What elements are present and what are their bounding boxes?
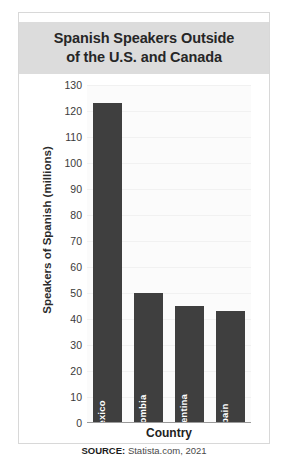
bar-colombia: Colombia [134, 293, 164, 423]
source-label: SOURCE: [81, 445, 125, 456]
x-axis-title: Country [87, 426, 251, 440]
y-tick-label: 30 [70, 339, 82, 351]
y-tick-label: 10 [70, 391, 82, 403]
bar-mexico: Mexico [93, 103, 123, 423]
bar-label: Argentina [178, 394, 189, 423]
y-axis-tick-labels: 0102030405060708090100110120130 [49, 85, 82, 423]
y-tick-label: 50 [70, 287, 82, 299]
plot-wrapper: Speakers of Spanish (millions) 010203040… [19, 74, 269, 445]
source-value: Statista.com, 2021 [128, 445, 207, 456]
bar-label: Mexico [96, 400, 107, 423]
y-tick-label: 80 [70, 209, 82, 221]
chart-title: Spanish Speakers Outside of the U.S. and… [54, 29, 235, 66]
plot-area: MexicoColombiaArgentinaSpain [87, 85, 251, 423]
source-note: SOURCE: Statista.com, 2021 [19, 445, 269, 456]
y-tick-label: 0 [76, 417, 82, 429]
y-tick-label: 110 [65, 131, 82, 143]
gridline [87, 85, 251, 86]
y-tick-label: 120 [64, 105, 82, 117]
bar-argentina: Argentina [175, 306, 205, 423]
y-tick-label: 100 [64, 157, 82, 169]
y-tick-label: 40 [70, 313, 82, 325]
y-tick-label: 70 [70, 235, 82, 247]
chart-title-line-2: of the U.S. and Canada [54, 48, 235, 67]
bar-spain: Spain [216, 311, 246, 423]
chart-title-line-1: Spanish Speakers Outside [54, 29, 235, 48]
chart-figure: Spanish Speakers Outside of the U.S. and… [18, 12, 270, 444]
chart-title-band: Spanish Speakers Outside of the U.S. and… [19, 22, 269, 74]
y-tick-label: 90 [70, 183, 82, 195]
y-tick-label: 60 [70, 261, 82, 273]
bar-label: Spain [219, 404, 230, 423]
x-axis-line [87, 422, 251, 423]
bar-label: Colombia [137, 395, 148, 423]
y-tick-label: 130 [64, 79, 82, 91]
y-tick-label: 20 [70, 365, 82, 377]
